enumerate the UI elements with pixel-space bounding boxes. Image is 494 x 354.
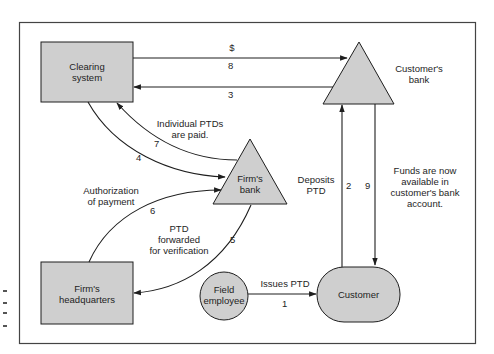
label-line: employee [200,295,248,306]
label-line: Authorization [80,185,142,196]
label-line: Clearing [41,61,133,72]
edge-1-label: Issues PTD [256,278,314,289]
edge-5-number: 5 [230,234,235,245]
label-line: Individual PTDs [150,118,230,129]
label-line: available in [380,176,470,187]
label-line: headquarters [41,294,133,305]
label-line: Firm's [220,173,280,184]
clearing-system-label: Clearing system [41,61,133,83]
label-line: Field [200,284,248,295]
edge-8-number: 8 [228,60,233,71]
label-line: Firm's [41,283,133,294]
margin-mark [3,312,7,314]
edge-6-number: 6 [150,205,155,216]
label-line: of payment [80,196,142,207]
label-line: bank [378,74,460,85]
label-line: for verification [143,245,215,256]
edge-5-label: PTD forwarded for verification [143,223,215,256]
firms-bank-label: Firm's bank [220,173,280,195]
edge-1-number: 1 [282,298,287,309]
customer-label: Customer [317,289,400,300]
margin-mark [3,302,7,304]
edge-2-label: Deposits PTD [296,174,336,196]
edge-9-label: Funds are now available in customer's ba… [380,165,470,209]
edge-7-number: 7 [154,138,159,149]
edge-6-label: Authorization of payment [80,185,142,207]
label-line: customer's bank [380,187,470,198]
label-line: PTD [296,185,336,196]
label-line: system [41,72,133,83]
margin-mark [3,290,7,292]
label-line: are paid. [150,129,230,140]
field-employee-label: Field employee [200,284,248,306]
edge-4-number: 4 [136,152,141,163]
margin-mark [3,325,7,327]
label-line: PTD [143,223,215,234]
label-line: Funds are now [380,165,470,176]
label-line: account. [380,198,470,209]
label-line: bank [220,184,280,195]
edge-7-label: Individual PTDs are paid. [150,118,230,140]
edge-8-dollar-label: $ [222,42,242,53]
label-line: Customer's [378,63,460,74]
edge-9-number: 9 [365,180,370,191]
label-line: Deposits [296,174,336,185]
customers-bank-label: Customer's bank [378,63,460,85]
firms-headquarters-label: Firm's headquarters [41,283,133,305]
edge-2-number: 2 [346,180,351,191]
label-line: forwarded [143,234,215,245]
edge-3-number: 3 [228,89,233,100]
